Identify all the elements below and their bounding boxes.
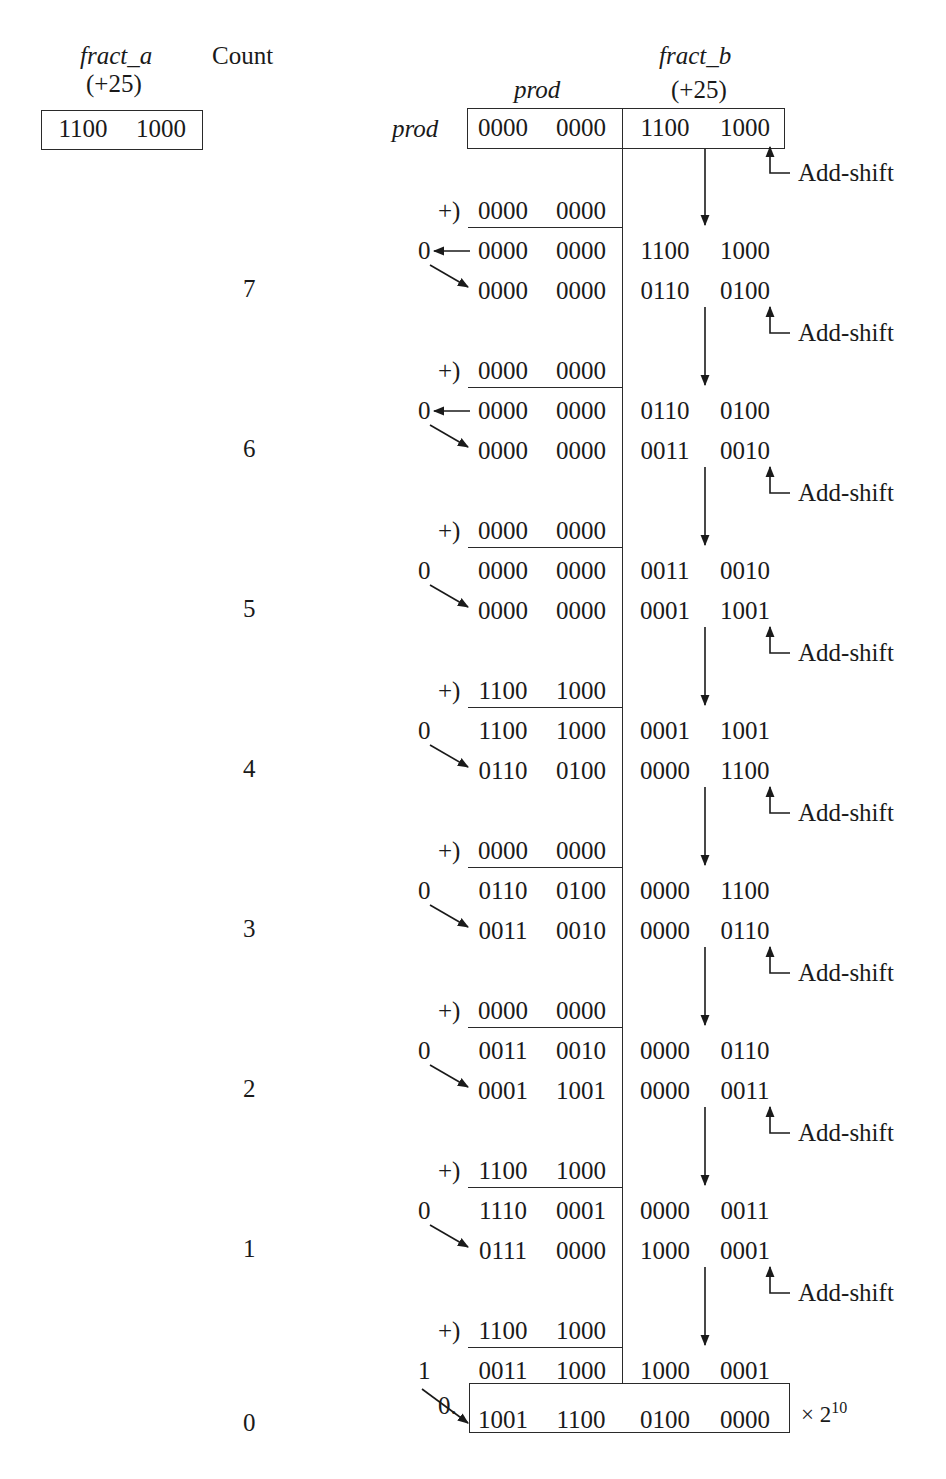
shift-arrow	[430, 425, 468, 447]
add-shift-arrow-icon	[770, 307, 790, 333]
add-shift-arrow-icon	[770, 627, 790, 653]
shift-arrow	[430, 1225, 468, 1247]
shift-arrow	[430, 585, 468, 607]
arrows-layer	[0, 0, 946, 1479]
final-multiplier: × 210	[801, 1394, 847, 1429]
add-shift-arrow-icon	[770, 147, 790, 173]
exponent: 10	[831, 1399, 847, 1416]
shift-arrow	[430, 265, 468, 287]
multiplier-text: × 2	[801, 1402, 831, 1427]
final-prefix: 0.	[438, 1392, 457, 1420]
shift-arrow	[430, 745, 468, 767]
add-shift-arrow-icon	[770, 1107, 790, 1133]
shift-arrow	[430, 905, 468, 927]
add-shift-arrow-icon	[770, 1267, 790, 1293]
add-shift-arrow-icon	[770, 787, 790, 813]
add-shift-arrow-icon	[770, 467, 790, 493]
final-result-box	[469, 1383, 790, 1433]
shift-arrow	[430, 1065, 468, 1087]
add-shift-arrow-icon	[770, 947, 790, 973]
